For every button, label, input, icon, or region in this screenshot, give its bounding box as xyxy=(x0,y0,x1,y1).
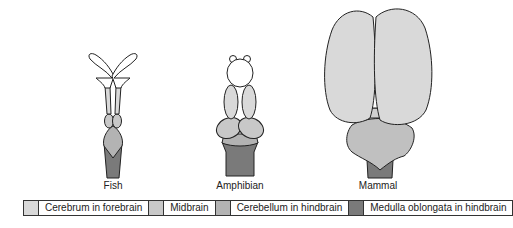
fish-forebrain-right xyxy=(112,54,137,88)
fish-tract-right xyxy=(115,86,121,114)
caption-mammal: Mammal xyxy=(328,180,428,191)
mammal-cerebrum-right xyxy=(374,9,432,125)
mammal-cerebrum-left xyxy=(325,11,376,123)
amphibian-cerebrum-left xyxy=(224,85,238,119)
mammal-brain xyxy=(325,9,432,178)
legend: Cerebrum in forebrain Midbrain Cerebellu… xyxy=(23,200,513,216)
legend-label-midbrain: Midbrain xyxy=(164,201,215,215)
mammal-cerebellum xyxy=(347,119,414,170)
legend-label-cerebrum: Cerebrum in forebrain xyxy=(39,201,149,215)
amphibian-cerebrum-right xyxy=(242,85,256,119)
fish-forebrain-left xyxy=(89,54,114,88)
fish-tract-left xyxy=(105,86,111,114)
legend-swatch-cerebrum xyxy=(24,201,39,215)
fish-midbrain-right xyxy=(113,114,122,128)
caption-amphibian: Amphibian xyxy=(190,180,290,191)
legend-swatch-medulla xyxy=(349,201,364,215)
legend-label-medulla: Medulla oblongata in hindbrain xyxy=(364,201,512,215)
caption-fish: Fish xyxy=(63,180,163,191)
legend-swatch-cerebellum xyxy=(216,201,231,215)
legend-swatch-midbrain xyxy=(149,201,164,215)
legend-label-cerebellum: Cerebellum in hindbrain xyxy=(231,201,350,215)
brain-comparison-figure xyxy=(0,0,512,196)
amphibian-medulla xyxy=(222,142,258,176)
fish-brain xyxy=(89,54,137,178)
amphibian-brain xyxy=(213,56,267,177)
amphibian-forebrain xyxy=(227,59,253,87)
